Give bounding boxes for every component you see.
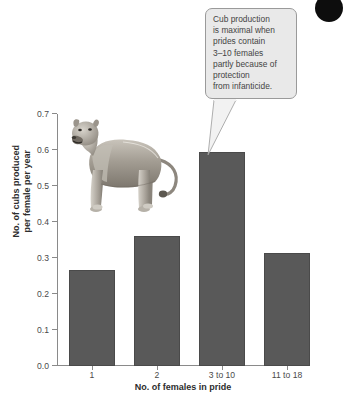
y-axis-title-line2: per female per year [22, 111, 33, 271]
y-axis-tick: 0.1 [52, 329, 57, 330]
x-axis-tick-label: 11 to 18 [272, 370, 302, 380]
y-axis-tick: 0.7 [52, 113, 57, 114]
annotation-line: prides contain [213, 36, 290, 47]
y-axis-tick-label: 0.0 [37, 361, 49, 371]
x-axis-title: No. of females in pride [57, 382, 309, 392]
y-axis-tick-label: 0.7 [37, 109, 49, 119]
corner-bullet-marker [315, 0, 343, 22]
y-axis-tick: 0.2 [52, 293, 57, 294]
y-axis-title: No. of cubs produced per female per year [11, 111, 34, 271]
annotation-line: from infanticide. [213, 81, 290, 92]
annotation-line: is maximal when [213, 25, 290, 36]
y-axis-title-line1: No. of cubs produced [11, 111, 22, 271]
y-axis-tick: 0.5 [52, 185, 57, 186]
y-axis-tick: 0.0 [52, 365, 57, 366]
y-axis-tick-label: 0.3 [37, 253, 49, 263]
annotation-line: partly because of [213, 59, 290, 70]
y-axis-tick-label: 0.1 [37, 325, 49, 335]
bar[interactable] [264, 253, 310, 366]
y-axis-tick: 0.3 [52, 257, 57, 258]
y-axis-tick-label: 0.6 [37, 145, 49, 155]
annotation-callout: Cub production is maximal when prides co… [205, 8, 297, 99]
y-axis-tick: 0.6 [52, 149, 57, 150]
bar[interactable] [69, 270, 115, 366]
y-axis-tick-label: 0.2 [37, 289, 49, 299]
y-axis-line [57, 114, 58, 366]
x-axis-tick-label: 3 to 10 [209, 370, 235, 380]
y-axis-tick-label: 0.4 [37, 217, 49, 227]
annotation-line: protection [213, 70, 290, 81]
x-axis-tick-label: 2 [155, 370, 160, 380]
annotation-line: Cub production [213, 14, 290, 25]
y-axis-tick: 0.4 [52, 221, 57, 222]
lioness-illustration [63, 112, 187, 220]
annotation-line: 3–10 females [213, 48, 290, 59]
bar[interactable] [134, 236, 180, 366]
x-axis-tick-label: 1 [90, 370, 95, 380]
bar[interactable] [199, 152, 245, 366]
y-axis-tick-label: 0.5 [37, 181, 49, 191]
